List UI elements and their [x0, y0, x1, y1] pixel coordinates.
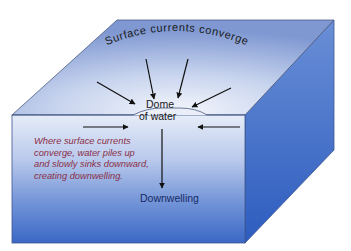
caption-line-3: and slowly sinks downward, — [34, 159, 194, 171]
downwelling-caption: Where surface currents converge, water p… — [34, 136, 194, 182]
dome-label-line2: of water — [139, 110, 176, 122]
caption-line-1: Where surface currents — [34, 136, 194, 148]
caption-line-2: converge, water piles up — [34, 148, 194, 160]
dome-label: Dome — [146, 98, 174, 110]
caption-line-4: creating downwelling. — [34, 171, 194, 183]
dome-label-line1: Dome — [146, 98, 174, 110]
downwelling-label: Downwelling — [140, 192, 199, 204]
of-water-label: of water — [139, 110, 176, 122]
downwelling-diagram: Surface currents converge — [0, 0, 351, 251]
